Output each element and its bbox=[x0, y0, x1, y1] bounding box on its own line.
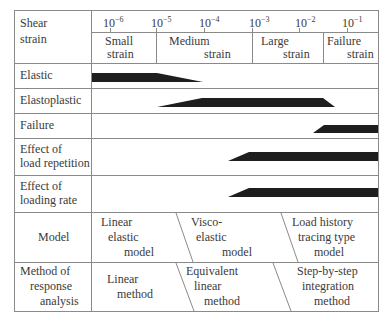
row-label-load-repetition-line1: Effect of bbox=[20, 143, 62, 156]
model-linear-l1: Linear bbox=[101, 216, 132, 229]
row-label-loading-rate-line2: loading rate bbox=[20, 194, 77, 207]
tick-1e-4: 10−4 bbox=[199, 13, 220, 30]
tick-1e-5: 10−5 bbox=[151, 13, 172, 30]
method-linear-l1: Linear bbox=[107, 273, 138, 286]
model-visco-l1: Visco- bbox=[191, 216, 222, 229]
shear-strain-label-line2: strain bbox=[20, 33, 47, 46]
model-loadhist-l2: tracing type bbox=[298, 231, 355, 244]
method-equiv-l2: linear bbox=[194, 280, 221, 293]
tick-1e-2: 10−2 bbox=[295, 13, 316, 30]
method-equiv-l3: method bbox=[204, 295, 240, 308]
range-large-line2: strain bbox=[283, 48, 310, 61]
tick-1e-1: 10−1 bbox=[342, 13, 363, 30]
model-loadhist-l3: model bbox=[314, 246, 344, 259]
model-visco-l3: model bbox=[222, 246, 252, 259]
model-linear-l3: model bbox=[124, 246, 154, 259]
method-step-l3: method bbox=[314, 295, 350, 308]
method-label-l1: Method of bbox=[20, 265, 70, 278]
tick-1e-3: 10−3 bbox=[249, 13, 270, 30]
method-step-l2: integration bbox=[302, 280, 354, 293]
range-medium-line2: strain bbox=[204, 48, 231, 61]
method-linear-l2: method bbox=[117, 288, 153, 301]
model-loadhist-l1: Load history bbox=[292, 216, 353, 229]
method-label-l3: analysis bbox=[40, 295, 79, 308]
shear-strain-label-line1: Shear bbox=[20, 17, 47, 30]
method-step-l1: Step-by-step bbox=[297, 265, 358, 278]
method-equiv-l1: Equivalent bbox=[186, 265, 238, 278]
row-label-load-repetition-line2: load repetition bbox=[20, 157, 90, 170]
strain-range-bars bbox=[92, 73, 378, 197]
model-linear-l2: elastic bbox=[108, 231, 139, 244]
model-label: Model bbox=[38, 231, 69, 244]
range-failure-line2: strain bbox=[347, 48, 374, 61]
row-label-failure: Failure bbox=[20, 119, 54, 132]
method-label-l2: response bbox=[30, 280, 72, 293]
tick-1e-6: 10−6 bbox=[103, 13, 124, 30]
row-label-elastoplastic: Elastoplastic bbox=[20, 94, 81, 107]
model-visco-l2: elastic bbox=[196, 231, 227, 244]
row-label-loading-rate-line1: Effect of bbox=[20, 180, 62, 193]
row-label-elastic: Elastic bbox=[20, 69, 53, 82]
range-small-line2: strain bbox=[107, 48, 134, 61]
